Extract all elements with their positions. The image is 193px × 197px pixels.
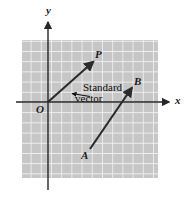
point-label-a: A — [81, 150, 88, 161]
vector-diagram-figure: P B A O x y Standard vector — [0, 0, 193, 197]
x-axis-label: x — [175, 95, 181, 106]
y-axis-label: y — [46, 5, 51, 16]
annotation-vector: vector — [75, 93, 102, 105]
point-label-p: P — [95, 49, 102, 60]
point-label-b: B — [134, 76, 141, 87]
origin-label: O — [36, 104, 44, 115]
